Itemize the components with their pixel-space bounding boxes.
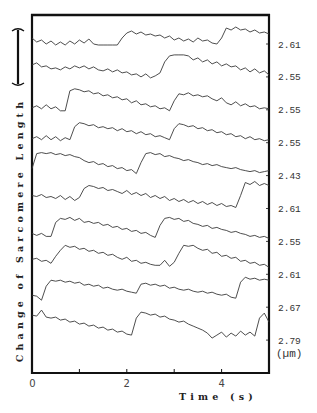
trace-7: [32, 217, 269, 238]
sarcomere-length-figure: Change of Sarcomere Length 2.61 2.55 2.5…: [0, 0, 317, 413]
trace-label: 2.55: [278, 138, 301, 149]
trace-label: 2.55: [278, 105, 301, 116]
trace-4: [32, 123, 269, 141]
x-tick-label: 2: [124, 378, 130, 389]
scale-bar: [12, 29, 24, 86]
trace-9: [32, 277, 269, 300]
trace-label: 2.61: [278, 204, 301, 215]
x-axis-title: Time (s): [179, 391, 257, 402]
trace-label: 2.55: [278, 237, 301, 248]
trace-8: [32, 245, 269, 267]
trace-5: [32, 153, 269, 174]
trace-label: 2.55: [278, 72, 301, 83]
traces: [32, 27, 269, 338]
trace-10: [32, 310, 269, 338]
unit-label: (µm): [276, 348, 302, 360]
y-axis-title: Change of Sarcomere Length: [14, 98, 25, 363]
x-tick-label: 0: [29, 378, 35, 389]
trace-label: 2.61: [278, 270, 301, 281]
trace-label: 2.43: [278, 171, 301, 182]
trace-label: 2.79: [278, 336, 301, 347]
x-tick-label: 4: [218, 378, 224, 389]
trace-3: [32, 89, 269, 111]
trace-labels: 2.61 2.55 2.55 2.55 2.43 2.61 2.55 2.61 …: [276, 40, 302, 361]
x-tick-labels: 0 2 4: [29, 378, 224, 389]
trace-1: [32, 27, 269, 45]
trace-label: 2.61: [278, 40, 301, 51]
trace-6: [32, 182, 269, 208]
trace-label: 2.67: [278, 303, 301, 314]
trace-2: [32, 55, 269, 78]
